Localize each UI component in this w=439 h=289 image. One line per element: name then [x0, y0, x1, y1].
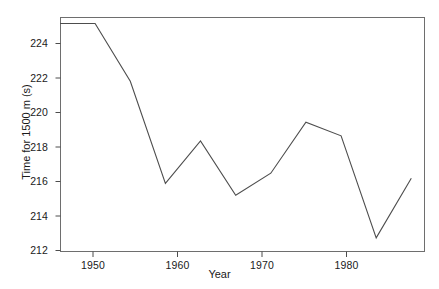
y-axis-title: Time for 1500 m (s): [20, 52, 32, 212]
y-axis-ticks: [56, 44, 61, 251]
y-tick-label-224: 224: [22, 37, 48, 49]
plot-frame: [61, 18, 425, 252]
x-axis-ticks: [93, 252, 347, 258]
data-series-line: [60, 24, 411, 238]
line-chart-plot: [0, 0, 439, 289]
chart-figure: 212 214 216 218 220 222 224 1950 1960 19…: [0, 0, 439, 289]
y-tick-label-212: 212: [22, 244, 48, 256]
x-axis-title: Year: [0, 268, 439, 280]
